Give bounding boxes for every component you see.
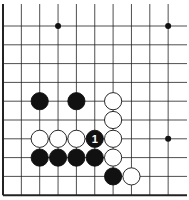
black-stone-icon [49, 149, 66, 166]
black-stone-icon [31, 149, 48, 166]
black-stone-icon [68, 149, 85, 166]
white-stone-icon [49, 130, 66, 147]
black-stone [31, 93, 48, 110]
white-stone [49, 130, 66, 147]
black-stone-icon [105, 168, 122, 185]
black-stone-icon [68, 93, 85, 110]
white-stone-icon [105, 111, 122, 128]
white-stone-icon [31, 130, 48, 147]
white-stone-icon [68, 130, 85, 147]
white-stone [68, 130, 85, 147]
black-stone [86, 149, 103, 166]
white-stone [105, 93, 122, 110]
black-stone [68, 93, 85, 110]
black-stone [49, 149, 66, 166]
star-point-icon [165, 23, 171, 29]
white-stone [31, 130, 48, 147]
white-stone [123, 168, 140, 185]
white-stone-icon [105, 149, 122, 166]
go-board: 1 [0, 0, 189, 200]
star-point-icon [165, 136, 171, 142]
black-stone-icon [31, 93, 48, 110]
white-stone-icon [105, 130, 122, 147]
white-stone-icon [123, 168, 140, 185]
white-stone [105, 149, 122, 166]
black-stone [105, 168, 122, 185]
star-point-icon [55, 23, 61, 29]
white-stone [105, 111, 122, 128]
white-stone-icon [105, 93, 122, 110]
white-stone [105, 130, 122, 147]
black-stone [68, 149, 85, 166]
move-number-label: 1 [92, 133, 98, 145]
black-stone [31, 149, 48, 166]
marked-black-stone: 1 [86, 130, 103, 147]
black-stone-icon [86, 149, 103, 166]
